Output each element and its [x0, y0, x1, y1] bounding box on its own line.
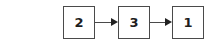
node-box-3: 1 — [172, 6, 204, 39]
node-label-1: 2 — [74, 15, 83, 30]
edge-line-2-3 — [149, 22, 166, 23]
arrowhead-icon-2-3 — [165, 18, 172, 26]
node-box-1: 2 — [63, 6, 95, 39]
node-label-3: 1 — [183, 15, 192, 30]
arrowhead-icon-1-2 — [111, 18, 118, 26]
edge-line-1-2 — [95, 22, 112, 23]
node-box-2: 3 — [118, 6, 150, 39]
node-label-2: 3 — [129, 15, 138, 30]
